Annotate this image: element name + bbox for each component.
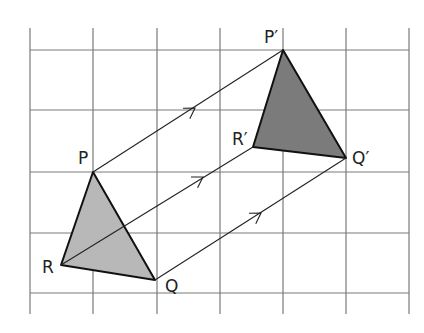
triangle-pqr xyxy=(61,172,155,280)
translation-diagram: PQRP′Q′R′ xyxy=(0,0,424,333)
vertex-label-q: Q xyxy=(165,276,178,296)
square-grid xyxy=(30,28,409,314)
triangle-p-prime-q-prime-r-prime xyxy=(253,50,346,158)
triangle-object-shape xyxy=(61,172,155,280)
vertex-label-q-prime: Q′ xyxy=(352,148,369,168)
translation-line-q xyxy=(155,158,346,280)
triangle-image-shape xyxy=(253,50,346,158)
translation-line-p xyxy=(93,50,283,172)
vertex-label-r-prime: R′ xyxy=(232,129,248,149)
vertex-label-r: R xyxy=(42,257,54,277)
vertex-label-p-prime: P′ xyxy=(264,27,278,47)
vertex-label-p: P xyxy=(78,148,88,168)
